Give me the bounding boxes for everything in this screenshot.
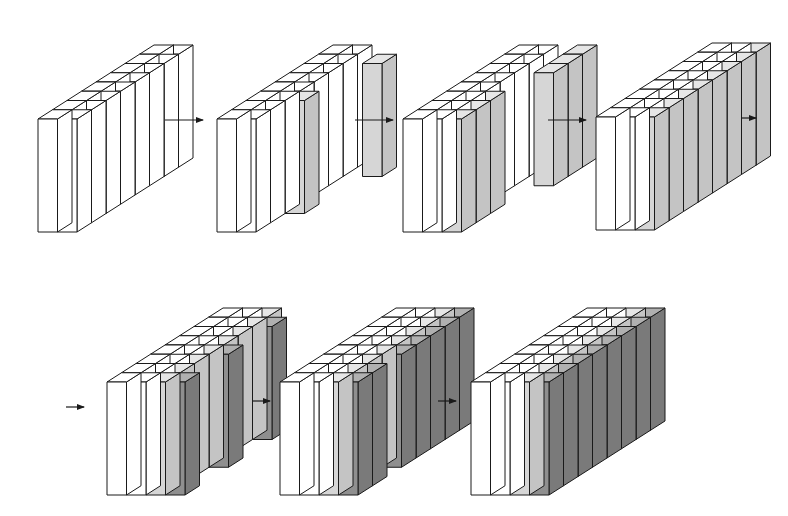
cell-side-face	[150, 64, 165, 186]
cell-side-face	[285, 91, 300, 213]
cell-side-face	[669, 99, 684, 221]
cell-side-face	[271, 101, 286, 223]
cell-side-face	[164, 54, 179, 176]
cell-side-face	[515, 64, 530, 186]
cell-side-face	[698, 80, 713, 202]
cell-side-face	[727, 62, 742, 184]
cell-side-face	[121, 82, 136, 204]
cell-side-face	[462, 110, 477, 232]
cell-side-face	[476, 101, 491, 223]
cell-side-face	[583, 45, 598, 167]
cell-front-face	[596, 117, 616, 230]
cell-front-face	[107, 382, 127, 495]
cell-side-face	[253, 317, 268, 439]
cell-front-face	[534, 73, 554, 186]
cell-side-face	[431, 327, 446, 449]
cell-side-face	[237, 110, 252, 232]
cell-side-face	[549, 373, 564, 495]
cell-side-face	[578, 354, 593, 476]
cell-side-face	[58, 110, 73, 232]
stage-1-block	[38, 45, 193, 232]
cell-front-face	[403, 119, 423, 232]
stage-4-block	[596, 43, 771, 230]
stage-2-block	[217, 45, 397, 232]
cell-side-face	[530, 373, 545, 495]
cell-side-face	[179, 45, 194, 167]
cell-side-face	[209, 345, 224, 467]
cell-side-face	[146, 373, 161, 495]
cell-side-face	[655, 108, 670, 230]
cell-side-face	[713, 71, 728, 193]
cell-side-face	[564, 364, 579, 486]
cell-side-face	[339, 373, 354, 495]
cell-side-face	[382, 54, 397, 176]
cell-side-face	[185, 373, 200, 495]
cell-side-face	[229, 345, 244, 467]
cell-front-face	[217, 119, 237, 232]
cell-side-face	[319, 373, 334, 495]
cell-side-face	[329, 64, 344, 186]
cell-side-face	[166, 373, 181, 495]
stages-layer	[38, 43, 771, 495]
cell-side-face	[651, 308, 666, 430]
cell-side-face	[358, 373, 373, 495]
cell-side-face	[616, 108, 631, 230]
cell-side-face	[568, 54, 583, 176]
cell-side-face	[135, 73, 150, 195]
cell-side-face	[756, 43, 771, 165]
stage-7-block	[471, 308, 665, 495]
cell-front-face	[38, 119, 58, 232]
cell-side-face	[554, 64, 569, 186]
cell-side-face	[402, 345, 417, 467]
cell-side-face	[510, 373, 525, 495]
stage-3-block	[403, 45, 597, 232]
cell-side-face	[256, 110, 271, 232]
cell-side-face	[593, 345, 608, 467]
cell-side-face	[343, 54, 358, 176]
cell-front-face	[471, 382, 491, 495]
cell-side-face	[491, 91, 506, 213]
cell-side-face	[442, 110, 457, 232]
cell-side-face	[491, 373, 506, 495]
cell-side-face	[300, 373, 315, 495]
block-sequence-diagram	[0, 0, 788, 516]
cell-side-face	[445, 317, 460, 439]
cell-side-face	[684, 89, 699, 211]
cell-side-face	[106, 91, 121, 213]
cell-side-face	[607, 336, 622, 458]
cell-side-face	[77, 110, 92, 232]
cell-front-face	[280, 382, 300, 495]
cell-side-face	[373, 364, 388, 486]
cell-side-face	[416, 336, 431, 458]
cell-side-face	[742, 52, 757, 174]
cell-side-face	[635, 108, 650, 230]
cell-side-face	[636, 317, 651, 439]
cell-side-face	[92, 101, 107, 223]
cell-side-face	[622, 327, 637, 449]
cell-side-face	[127, 373, 142, 495]
cell-side-face	[423, 110, 438, 232]
cell-side-face	[305, 91, 320, 213]
